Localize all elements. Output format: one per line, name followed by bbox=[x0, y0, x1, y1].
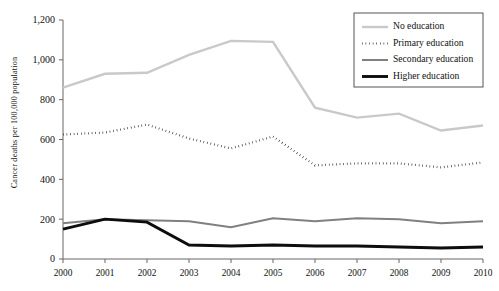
x-tick-label: 2008 bbox=[390, 268, 409, 278]
chart-svg: 02004006008001,0001,200 2000200120022003… bbox=[63, 20, 483, 259]
x-tick-label: 2005 bbox=[264, 268, 283, 278]
x-axis-ticks: 2000200120022003200420052006200720082009… bbox=[54, 259, 493, 278]
y-tick-label: 600 bbox=[40, 134, 55, 145]
legend-label-3: Higher education bbox=[393, 70, 460, 81]
y-tick-label: 1,000 bbox=[33, 54, 56, 65]
legend-label-2: Secondary education bbox=[393, 53, 473, 64]
y-tick-label: 800 bbox=[40, 94, 55, 105]
x-tick-label: 2003 bbox=[180, 268, 199, 278]
legend-label-0: No education bbox=[393, 20, 445, 31]
y-axis-title: Cancer deaths per 100,000 population bbox=[10, 23, 19, 223]
x-tick-label: 2001 bbox=[96, 268, 115, 278]
x-tick-label: 2009 bbox=[432, 268, 451, 278]
x-tick-label: 2000 bbox=[54, 268, 73, 278]
y-tick-label: 0 bbox=[50, 253, 55, 264]
series-line-1 bbox=[63, 125, 483, 168]
x-tick-label: 2007 bbox=[348, 268, 367, 278]
plot-area: 02004006008001,0001,200 2000200120022003… bbox=[63, 20, 483, 259]
y-tick-label: 1,200 bbox=[33, 14, 56, 25]
x-tick-label: 2006 bbox=[306, 268, 325, 278]
y-axis-ticks: 02004006008001,0001,200 bbox=[33, 14, 64, 264]
x-tick-label: 2002 bbox=[138, 268, 157, 278]
y-tick-label: 200 bbox=[40, 214, 55, 225]
legend-label-1: Primary education bbox=[393, 37, 464, 48]
x-tick-label: 2004 bbox=[222, 268, 241, 278]
series-line-3 bbox=[63, 219, 483, 248]
chart-legend: No educationPrimary educationSecondary e… bbox=[354, 13, 483, 87]
chart-figure: Cancer deaths per 100,000 population 020… bbox=[0, 0, 499, 291]
x-tick-label: 2010 bbox=[474, 268, 493, 278]
y-tick-label: 400 bbox=[40, 174, 55, 185]
